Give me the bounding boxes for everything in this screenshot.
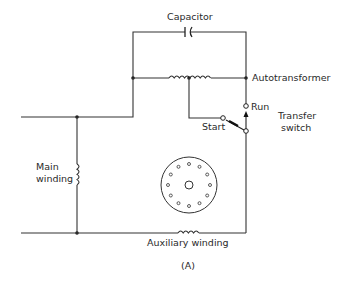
main-winding-coil-icon [77,164,79,185]
auxiliary-coil-icon [178,231,199,233]
switch-arrow-icon [244,111,249,117]
capacitor-label: Capacitor [167,11,213,22]
main-winding [21,78,133,235]
circuit-diagram: Capacitor Autotransformer Run Start Tran… [0,0,348,290]
start-terminal-icon [221,116,226,121]
switch-pivot-icon [244,129,249,134]
transfer-switch-label-2: switch [281,122,311,133]
transfer-switch-label: Transfer [277,110,316,121]
main-winding-label-2: winding [36,173,73,184]
capacitor-branch [133,27,246,78]
autotransformer-label: Autotransformer [252,72,330,83]
auxiliary-winding-label: Auxiliary winding [147,237,229,248]
run-label: Run [251,101,269,112]
figure-label: (A) [181,260,195,271]
auxiliary-winding [21,231,246,233]
start-label: Start [202,121,225,132]
run-terminal-icon [244,104,249,109]
main-winding-label: Main [36,161,59,172]
rotor-icon [161,157,217,213]
